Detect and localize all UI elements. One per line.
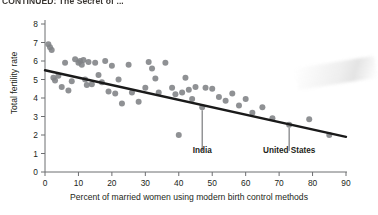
data-point[interactable] xyxy=(223,98,229,104)
y-tick-label: 3 xyxy=(0,112,38,122)
x-tick-label: 20 xyxy=(107,178,116,188)
x-tick-label: 10 xyxy=(74,178,83,188)
data-point[interactable] xyxy=(216,94,222,100)
data-point[interactable] xyxy=(59,84,65,90)
data-point[interactable] xyxy=(146,59,152,65)
y-tick-label: 5 xyxy=(0,75,38,85)
data-point[interactable] xyxy=(169,85,175,91)
data-point[interactable] xyxy=(96,72,102,78)
data-point[interactable] xyxy=(162,60,168,66)
y-tick-label: 2 xyxy=(0,130,38,140)
y-tick-label: 7 xyxy=(0,38,38,48)
data-point[interactable] xyxy=(85,59,91,65)
point-annotation-label: United States xyxy=(263,146,315,155)
x-tick-label: 70 xyxy=(274,178,283,188)
data-point[interactable] xyxy=(84,82,90,88)
x-tick-label: 40 xyxy=(174,178,183,188)
point-annotation-label: India xyxy=(193,146,212,155)
x-axis-title: Percent of married women using modern bi… xyxy=(0,192,378,202)
data-point[interactable] xyxy=(189,96,195,102)
trendline xyxy=(45,70,346,137)
data-point[interactable] xyxy=(306,116,312,122)
data-point[interactable] xyxy=(142,85,148,91)
figure-container: CONTINUED: The Secret of ... Total ferti… xyxy=(0,0,378,215)
data-point[interactable] xyxy=(203,85,209,91)
data-point[interactable] xyxy=(119,101,125,107)
data-point[interactable] xyxy=(136,99,142,105)
data-point[interactable] xyxy=(259,104,265,110)
data-point[interactable] xyxy=(102,58,108,64)
data-point[interactable] xyxy=(193,84,199,90)
data-point[interactable] xyxy=(49,47,55,53)
data-point[interactable] xyxy=(92,60,98,66)
data-point[interactable] xyxy=(186,87,192,93)
data-point[interactable] xyxy=(109,63,115,69)
y-tick-label: 8 xyxy=(0,19,38,29)
y-tick-label: 0 xyxy=(0,167,38,177)
data-point[interactable] xyxy=(243,96,249,102)
y-tick-label: 4 xyxy=(0,93,38,103)
scatter-plot-canvas xyxy=(0,0,378,215)
x-tick-label: 30 xyxy=(141,178,150,188)
data-point[interactable] xyxy=(106,89,112,95)
data-point[interactable] xyxy=(176,132,182,138)
x-tick-label: 80 xyxy=(308,178,317,188)
x-tick-label: 60 xyxy=(241,178,250,188)
x-tick-label: 50 xyxy=(208,178,217,188)
x-tick-label: 0 xyxy=(43,178,48,188)
data-point[interactable] xyxy=(69,78,75,84)
data-point[interactable] xyxy=(112,90,118,96)
data-point[interactable] xyxy=(229,90,235,96)
data-point[interactable] xyxy=(236,102,242,108)
data-point[interactable] xyxy=(149,65,155,71)
y-tick-label: 6 xyxy=(0,56,38,66)
data-point[interactable] xyxy=(116,77,122,83)
data-point[interactable] xyxy=(62,60,68,66)
data-point[interactable] xyxy=(65,88,71,94)
data-point[interactable] xyxy=(126,62,132,68)
data-point[interactable] xyxy=(209,86,215,92)
y-tick-label: 1 xyxy=(0,149,38,159)
data-point[interactable] xyxy=(182,75,188,81)
data-point[interactable] xyxy=(152,76,158,82)
data-point[interactable] xyxy=(179,89,185,95)
data-point[interactable] xyxy=(172,91,178,97)
x-tick-label: 90 xyxy=(341,178,350,188)
figure-title: CONTINUED: The Secret of ... xyxy=(2,0,124,6)
